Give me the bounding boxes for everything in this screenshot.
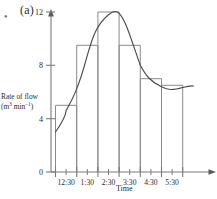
x-axis [51, 169, 216, 175]
y-tick-label-4: 4 [39, 115, 43, 124]
x-tick-label-0330: 3:30 [123, 178, 137, 187]
bar-0530 [162, 85, 183, 172]
bar-0430 [140, 79, 161, 172]
x-tick-label-1230: 12:30 [57, 178, 75, 187]
y-tick-label-8: 8 [39, 61, 43, 70]
bar-series [56, 12, 183, 172]
x-tick-label-0530: 5:30 [165, 178, 179, 187]
x-tick-label-0230: 2:30 [102, 178, 116, 187]
bar-0130 [77, 45, 98, 172]
y-tick-label-12: 12 [35, 8, 43, 17]
figure-container: • (a) Rate of flow (m3 min−1) Time 0 4 8… [0, 0, 217, 199]
chart-plot-area: 0 4 8 12 [0, 0, 217, 199]
y-tick-label-0: 0 [39, 168, 43, 177]
x-tick-label-0430: 4:30 [144, 178, 158, 187]
bar-0330 [119, 45, 140, 172]
bar-1230 [56, 105, 77, 172]
bar-0230 [98, 12, 119, 172]
x-tick-label-0130: 1:30 [81, 178, 95, 187]
y-axis [48, 9, 54, 172]
